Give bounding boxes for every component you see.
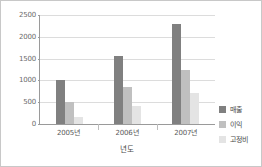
bar bbox=[172, 24, 181, 124]
x-axis-title: 년도 bbox=[39, 143, 215, 154]
legend-item-label: 고정비 bbox=[230, 134, 247, 144]
x-tick-label: 2007년 bbox=[174, 127, 197, 139]
legend-item[interactable]: 이익 bbox=[219, 119, 247, 129]
legend-item-label: 이익 bbox=[230, 119, 242, 129]
bar bbox=[114, 56, 123, 124]
bar-group bbox=[114, 15, 141, 124]
bar-chart-figure: 05001000150020002500 2005년2006년2007년 년도 … bbox=[0, 0, 262, 167]
y-tick-label: 1000 bbox=[19, 76, 36, 84]
chart-legend: 매출이익고정비 bbox=[219, 104, 247, 144]
bar bbox=[74, 117, 83, 124]
bar bbox=[123, 87, 132, 124]
legend-swatch-icon bbox=[219, 121, 226, 128]
bar-groups bbox=[40, 15, 215, 124]
legend-item[interactable]: 매출 bbox=[219, 104, 247, 114]
y-tick-label: 2500 bbox=[19, 11, 36, 19]
bar bbox=[56, 80, 65, 124]
bar-group bbox=[56, 15, 83, 124]
y-tick-label: 0 bbox=[32, 120, 36, 128]
legend-item[interactable]: 고정비 bbox=[219, 134, 247, 144]
bar bbox=[65, 102, 74, 124]
bar bbox=[181, 70, 190, 125]
y-tick-label: 1500 bbox=[19, 55, 36, 63]
plot-area: 05001000150020002500 bbox=[39, 15, 215, 125]
y-tick-mark bbox=[38, 124, 40, 125]
x-tick-label: 2006년 bbox=[116, 127, 139, 139]
bar bbox=[190, 93, 199, 124]
y-tick-label: 2000 bbox=[19, 33, 36, 41]
legend-swatch-icon bbox=[219, 106, 226, 113]
legend-swatch-icon bbox=[219, 136, 226, 143]
x-tick-label: 2005년 bbox=[57, 127, 80, 139]
bar-group bbox=[172, 15, 199, 124]
legend-item-label: 매출 bbox=[230, 104, 242, 114]
x-axis-tick-labels: 2005년2006년2007년 bbox=[39, 127, 215, 139]
bar bbox=[132, 106, 141, 124]
y-tick-label: 500 bbox=[23, 98, 36, 106]
